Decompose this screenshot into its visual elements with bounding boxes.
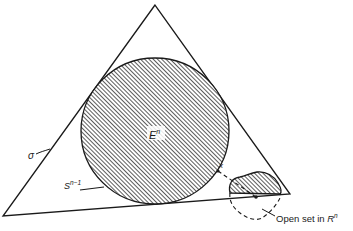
topology-diagram: En x σ Sn−1 Open set in Rn (0, 0, 353, 231)
open-set-label: Open set in Rn (276, 212, 338, 224)
simplex-label: σ (28, 150, 35, 161)
open-set-shaded-region (229, 172, 281, 194)
point-x-label: x (218, 161, 224, 170)
sphere-label: Sn−1 (64, 179, 81, 191)
point-image-dot (254, 195, 258, 199)
sphere-leader (80, 187, 104, 190)
open-set-leader (262, 209, 275, 216)
